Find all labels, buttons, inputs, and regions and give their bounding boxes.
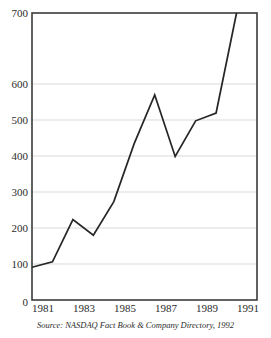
ytick-label-300: 300 [12, 186, 29, 198]
y-axis-tick-labels: 700 600 500 400 300 200 100 0 [12, 7, 29, 308]
plot-frame [32, 13, 257, 300]
line-chart: 700 600 500 400 300 200 100 0 1981 1983 … [0, 0, 271, 338]
x-axis-tick-labels: 1981 1983 1985 1987 1989 1991 [32, 302, 259, 314]
ytick-label-0: 0 [23, 296, 29, 308]
ytick-label-400: 400 [12, 150, 29, 162]
chart-svg: 700 600 500 400 300 200 100 0 1981 1983 … [0, 0, 271, 338]
gridlines [32, 84, 257, 264]
ytick-label-100: 100 [12, 258, 29, 270]
data-series-line [32, 13, 237, 267]
ytick-label-500: 500 [12, 114, 29, 126]
xtick-label-1981: 1981 [32, 302, 54, 314]
ytick-label-700: 700 [12, 7, 29, 19]
xtick-label-1987: 1987 [155, 302, 178, 314]
ytick-label-600: 600 [12, 78, 29, 90]
figure-container: 700 600 500 400 300 200 100 0 1981 1983 … [0, 0, 271, 338]
xtick-label-1983: 1983 [73, 302, 96, 314]
ytick-label-200: 200 [12, 222, 29, 234]
xtick-label-1985: 1985 [114, 302, 137, 314]
xtick-label-1991: 1991 [237, 302, 259, 314]
source-note: Source: NASDAQ Fact Book & Company Direc… [0, 320, 271, 330]
xtick-label-1989: 1989 [196, 302, 219, 314]
